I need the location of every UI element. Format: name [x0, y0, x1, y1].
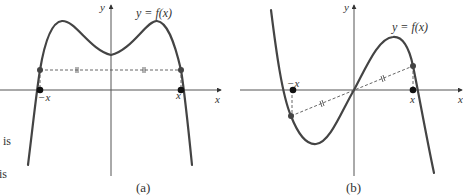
point-f-x — [410, 63, 416, 69]
label-neg-x: −x — [287, 77, 299, 89]
label-x: x — [409, 93, 415, 105]
label-neg-x: −x — [38, 91, 50, 103]
even-function-curve — [28, 21, 192, 165]
y-axis-label: y — [99, 1, 105, 13]
caption-a: (a) — [136, 180, 150, 195]
caption-b: (b) — [346, 180, 361, 195]
figure: is is −x x x y y = f(x) (a) — [0, 0, 463, 196]
point-f-neg-x — [37, 67, 43, 73]
dashed-connector — [291, 66, 413, 116]
label-x: x — [175, 89, 181, 101]
margin-text-1: is — [3, 134, 11, 148]
curve-label: y = f(x) — [391, 20, 428, 34]
panel-b: −x x x y y = f(x) (b) — [240, 1, 463, 195]
point-f-neg-x — [288, 113, 294, 119]
x-axis-label: x — [214, 93, 220, 105]
panel-a: −x x x y y = f(x) (a) — [0, 1, 221, 195]
y-axis-label: y — [343, 1, 349, 13]
margin-text-2: is — [0, 167, 7, 181]
point-f-x — [178, 67, 184, 73]
curve-label: y = f(x) — [135, 6, 172, 20]
x-axis-label: x — [457, 93, 463, 105]
